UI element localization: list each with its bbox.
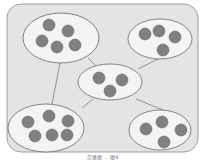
cluster-network-diagram <box>0 0 206 165</box>
node-circle <box>62 25 74 37</box>
node-circle <box>43 110 55 122</box>
node-circle <box>104 85 116 97</box>
node-circle <box>158 136 170 148</box>
node-circle <box>116 74 128 86</box>
node-circle <box>93 72 105 84</box>
node-circle <box>175 124 187 136</box>
node-circle <box>61 129 73 141</box>
node-circle <box>157 44 169 56</box>
node-circle <box>153 25 165 37</box>
node-circle <box>51 41 63 53</box>
node-circle <box>36 35 48 47</box>
cluster-top-left <box>23 13 99 63</box>
node-circle <box>139 28 151 40</box>
node-circle <box>62 115 74 127</box>
figure-caption: 示意图 ... 图4 <box>0 153 206 160</box>
node-circle <box>169 31 181 43</box>
node-circle <box>43 19 55 31</box>
node-circle <box>156 116 168 128</box>
node-circle <box>46 129 58 141</box>
node-circle <box>69 39 81 51</box>
node-circle <box>22 116 34 128</box>
node-circle <box>29 130 41 142</box>
node-circle <box>140 123 152 135</box>
